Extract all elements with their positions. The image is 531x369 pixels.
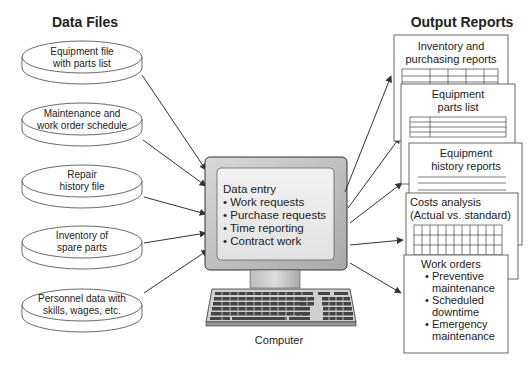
computer: Data entry • Work requests • Purchase re… [205, 157, 356, 346]
report-title-line1: Equipment [432, 88, 485, 100]
data-files-title: Data Files [52, 14, 118, 30]
monitor-stand [250, 270, 300, 288]
report-title-line1: Equipment [440, 147, 493, 159]
arrow-personnel-to-computer [144, 250, 208, 293]
output-reports-title: Output Reports [411, 14, 514, 30]
disk-label-line1: Maintenance and [44, 108, 121, 119]
arrow-to-history-reports [350, 183, 402, 223]
data-file-disk-personnel: Personnel data with skills, wages, etc. [22, 289, 142, 332]
report-title-line2: parts list [438, 101, 479, 113]
arrow-maintenance-to-computer [143, 140, 206, 186]
work-orders-heading: Work orders [421, 258, 481, 270]
data-file-disk-inventory: Inventory of spare parts [22, 226, 142, 269]
screen-heading: Data entry [223, 183, 276, 195]
disk-label-line2: with parts list [52, 58, 111, 69]
report-title-line2: history reports [431, 160, 501, 172]
disk-label-line2: history file [59, 181, 104, 192]
arrow-inventory-to-computer [144, 233, 206, 243]
disk-label-line2: skills, wages, etc. [43, 305, 121, 316]
diagram-canvas: Data Files Output Reports Equipment file… [0, 0, 531, 369]
disk-label-line2: spare parts [57, 242, 107, 253]
screen-item: • Work requests [223, 196, 304, 208]
data-file-disk-maintenance: Maintenance and work order schedule [22, 103, 142, 146]
arrow-repair-to-computer [144, 197, 206, 214]
data-file-disk-equipment: Equipment file with parts list [22, 41, 142, 84]
data-file-disk-repair-history: Repair history file [22, 165, 142, 208]
keyboard-base [206, 322, 356, 326]
disk-label-line1: Equipment file [50, 46, 114, 57]
disk-label-line1: Inventory of [56, 230, 108, 241]
screen-item: • Purchase requests [223, 209, 326, 221]
work-order-item: downtime [432, 306, 479, 318]
arrow-to-inventory-report [345, 76, 391, 192]
report-work-orders: Work orders • Preventive maintenance • S… [404, 255, 508, 353]
disk-label-line1: Repair [67, 169, 97, 180]
report-title-line1: Costs analysis [410, 196, 481, 208]
input-arrows [142, 75, 208, 293]
screen-item: • Time reporting [223, 222, 304, 234]
work-order-item: • Preventive [425, 270, 484, 282]
disk-label-line1: Personnel data with [38, 293, 126, 304]
report-title-line1: Inventory and [418, 40, 485, 52]
disk-label-line2: work order schedule [36, 120, 127, 131]
computer-label: Computer [255, 334, 304, 346]
work-order-item: • Scheduled [425, 294, 484, 306]
screen-item: • Contract work [223, 235, 301, 247]
report-title-line2: purchasing reports [405, 53, 497, 65]
arrow-to-costs-analysis [350, 240, 403, 245]
arrow-equipment-to-computer [142, 75, 206, 170]
arrow-to-parts-list [348, 137, 400, 208]
report-title-line2: (Actual vs. standard) [410, 209, 511, 221]
work-order-item: • Emergency [425, 318, 488, 330]
arrow-to-work-orders [350, 263, 401, 293]
work-order-item: maintenance [432, 330, 495, 342]
work-order-item: maintenance [432, 282, 495, 294]
